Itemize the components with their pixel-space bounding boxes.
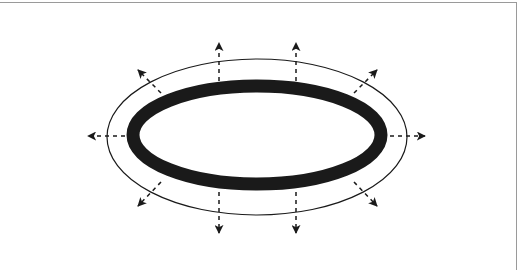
diagram-frame bbox=[0, 0, 523, 270]
inner-thick-ellipse bbox=[133, 86, 381, 184]
arrow-diag-bottom-left-icon bbox=[138, 182, 161, 206]
expansion-diagram bbox=[0, 0, 523, 270]
arrow-diag-top-left-icon bbox=[138, 70, 161, 93]
arrow-diag-top-right-icon bbox=[354, 70, 377, 93]
